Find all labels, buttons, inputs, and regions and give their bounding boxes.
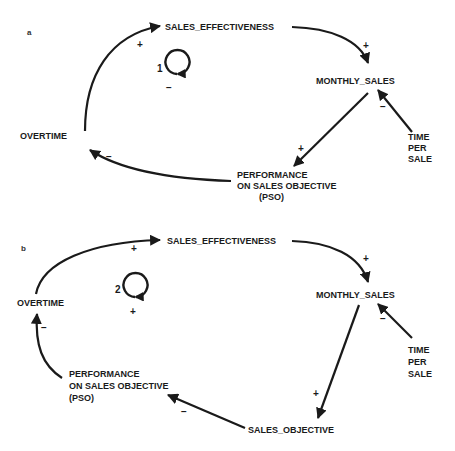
sign-plus: + [313,388,319,399]
sign-minus: − [41,322,47,333]
node-overtime: OVERTIME [20,131,67,141]
causal-loop-diagrams: a SALES_EFFECTIVENESS MONTHLY_SALES TIME… [0,0,455,451]
svg-text:(PSO): (PSO) [69,393,94,403]
loop-indicator-reinforcing: 2 + [115,273,148,317]
panel-label-a: a [27,28,32,37]
sign-plus: + [131,243,137,254]
loop-indicator-balancing: 1 − [157,50,190,93]
edge-sales-objective-to-pso [168,395,245,428]
node-overtime: OVERTIME [17,298,64,308]
edge-monthly-sales-to-sales-objective [318,305,359,418]
loop-number: 1 [157,63,163,74]
svg-text:PERFORMANCE: PERFORMANCE [69,369,140,379]
sign-plus: + [137,39,143,50]
svg-text:(PSO): (PSO) [259,192,284,202]
svg-text:ON SALES OBJECTIVE: ON SALES OBJECTIVE [237,181,337,191]
sign-minus: − [181,406,187,417]
edge-overtime-to-sales-effectiveness [36,240,160,294]
edge-sales-effectiveness-to-monthly-sales [292,27,368,63]
sign-plus: + [363,253,369,264]
sign-plus: + [363,40,369,51]
node-sales-objective: SALES_OBJECTIVE [248,425,334,435]
edge-overtime-to-sales-effectiveness [85,26,160,131]
node-time-per-sale: TIME PER SALE [408,132,432,164]
edge-monthly-sales-to-pso [294,93,368,166]
svg-text:PERFORMANCE: PERFORMANCE [237,170,308,180]
node-monthly-sales: MONTHLY_SALES [316,76,395,86]
svg-text:PER: PER [408,143,427,153]
node-monthly-sales: MONTHLY_SALES [316,290,395,300]
sign-minus: − [380,101,386,112]
node-sales-effectiveness: SALES_EFFECTIVENESS [165,22,274,32]
svg-text:PER: PER [408,357,427,367]
panel-b: b SALES_EFFECTIVENESS MONTHLY_SALES TIME… [17,236,432,435]
loop-polarity: + [130,306,136,317]
svg-text:ON SALES OBJECTIVE: ON SALES OBJECTIVE [69,381,169,391]
loop-arrow-icon [166,50,190,74]
svg-text:TIME: TIME [408,345,430,355]
svg-text:SALE: SALE [408,369,432,379]
loop-number: 2 [115,284,121,295]
svg-text:TIME: TIME [408,132,430,142]
panel-a: a SALES_EFFECTIVENESS MONTHLY_SALES TIME… [20,22,432,202]
sign-plus: + [298,143,304,154]
node-pso: PERFORMANCE ON SALES OBJECTIVE (PSO) [237,170,337,202]
loop-polarity: − [166,82,172,93]
svg-text:SALE: SALE [408,154,432,164]
sign-minus: − [380,313,386,324]
loop-arrow-icon [124,273,148,297]
node-time-per-sale: TIME PER SALE [408,345,432,379]
sign-minus: − [106,151,112,162]
node-sales-effectiveness: SALES_EFFECTIVENESS [167,236,276,246]
panel-label-b: b [21,244,26,253]
node-pso: PERFORMANCE ON SALES OBJECTIVE (PSO) [69,369,169,403]
edge-sales-effectiveness-to-monthly-sales [292,241,368,282]
